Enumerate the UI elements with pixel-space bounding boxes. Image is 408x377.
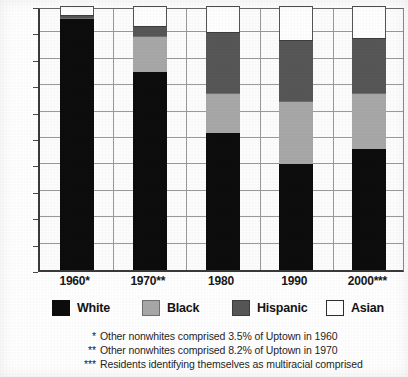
y-axis-tick-mark xyxy=(33,166,38,167)
y-axis: 100%90%80%70%60%50%40%30%20%10%0% xyxy=(38,8,404,272)
footnotes: *Other nonwhites comprised 3.5% of Uptow… xyxy=(0,330,408,372)
y-axis-tick-mark xyxy=(33,61,38,62)
footnote-row: **Other nonwhites comprised 8.2% of Upto… xyxy=(0,344,408,358)
footnote-marker: *** xyxy=(70,358,100,370)
legend-item-asian: Asian xyxy=(326,298,384,318)
footnote-text: Other nonwhites comprised 3.5% of Uptown… xyxy=(100,330,337,342)
legend-item-white: White xyxy=(52,298,110,318)
legend-swatch-white xyxy=(52,300,70,316)
footnote-row: ***Residents identifying themselves as m… xyxy=(0,358,408,372)
legend-label: Hispanic xyxy=(257,301,308,315)
legend-item-hispanic: Hispanic xyxy=(232,298,308,318)
footnote-row: *Other nonwhites comprised 3.5% of Uptow… xyxy=(0,330,408,344)
y-axis-tick-mark xyxy=(33,246,38,247)
y-axis-tick-mark xyxy=(33,219,38,220)
y-axis-tick-mark xyxy=(33,193,38,194)
legend-swatch-black xyxy=(142,300,160,316)
x-axis-tick-label: 2000*** xyxy=(322,274,408,288)
legend-label: White xyxy=(77,301,110,315)
legend-label: Black xyxy=(167,301,199,315)
footnote-text: Residents identifying themselves as mult… xyxy=(100,358,363,370)
x-axis: 1960*1970**198019902000*** xyxy=(38,274,404,294)
y-axis-tick-mark xyxy=(33,34,38,35)
legend-label: Asian xyxy=(351,301,384,315)
legend-swatch-asian xyxy=(326,300,344,316)
footnote-text: Other nonwhites comprised 8.2% of Uptown… xyxy=(100,344,337,356)
footnote-marker: ** xyxy=(70,344,100,356)
footnote-marker: * xyxy=(70,330,100,342)
legend-swatch-hispanic xyxy=(232,300,250,316)
legend-item-black: Black xyxy=(142,298,199,318)
y-axis-tick-mark xyxy=(33,272,38,273)
y-axis-tick-mark xyxy=(33,8,38,9)
stacked-bar-chart: 100%90%80%70%60%50%40%30%20%10%0% 1960*1… xyxy=(0,0,408,292)
y-axis-tick-mark xyxy=(33,114,38,115)
chart-legend: WhiteBlackHispanicAsian xyxy=(0,298,408,324)
y-axis-tick-mark xyxy=(33,87,38,88)
y-axis-tick-mark xyxy=(33,140,38,141)
